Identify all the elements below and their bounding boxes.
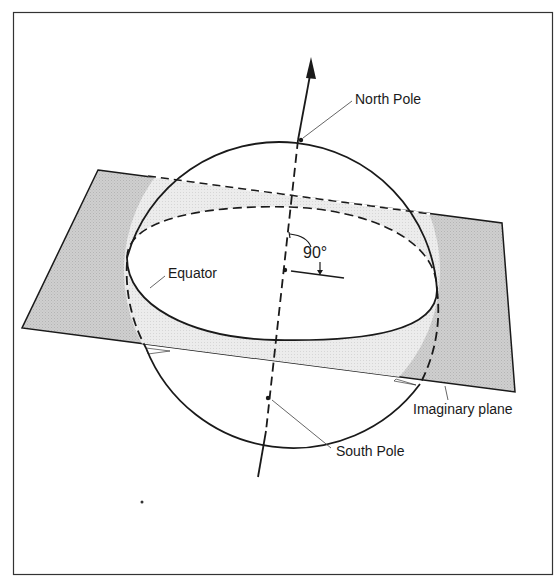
angle-label: 90° — [303, 244, 327, 261]
arrowhead-icon — [306, 57, 316, 79]
imaginary-plane-label: Imaginary plane — [413, 401, 513, 417]
stray-mark — [141, 501, 144, 504]
north-pole-label: North Pole — [355, 91, 421, 107]
earth-axis-diagram: 90° North Pole Equator South Pole Imagin… — [0, 0, 560, 581]
south-pole-label: South Pole — [336, 443, 405, 459]
center-dot — [283, 268, 287, 272]
north-pole-dot — [299, 138, 303, 142]
plane-leader — [445, 386, 448, 400]
equator-label: Equator — [168, 265, 217, 281]
axis-top — [298, 70, 311, 140]
south-pole-dot — [266, 396, 270, 400]
north-pole-leader — [303, 101, 352, 138]
